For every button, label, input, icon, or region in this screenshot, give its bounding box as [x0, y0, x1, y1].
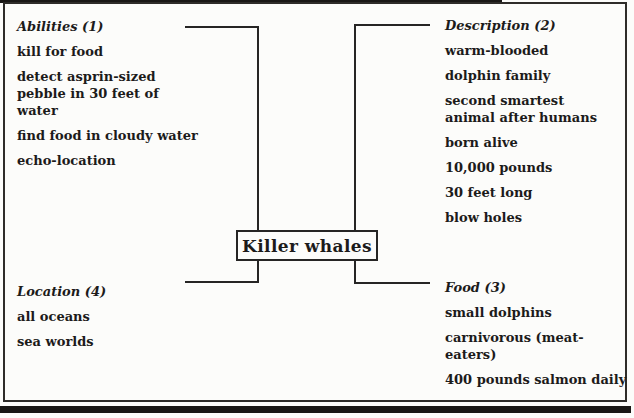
section-food: Food (3) small dolphins carnivorous (mea… [445, 279, 627, 396]
list-item: 400 pounds salmon daily [445, 371, 627, 388]
section-heading-food: Food (3) [445, 279, 627, 296]
list-item: detect asprin-sized pebble in 30 feet of… [17, 68, 199, 119]
list-item: second smartest animal after humans [445, 92, 607, 126]
connector-food-horizontal [354, 282, 430, 284]
center-node-label: Killer whales [242, 236, 372, 256]
connector-food-vertical [354, 259, 356, 284]
center-node: Killer whales [236, 230, 378, 261]
list-item: small dolphins [445, 304, 627, 321]
list-item: born alive [445, 134, 607, 151]
list-item: dolphin family [445, 67, 607, 84]
connector-description-horizontal [354, 24, 430, 26]
section-location: Location (4) all oceans sea worlds [17, 283, 199, 358]
list-item: kill for food [17, 43, 199, 60]
list-item: 10,000 pounds [445, 159, 607, 176]
section-abilities: Abilities (1) kill for food detect aspri… [17, 18, 199, 177]
list-item: find food in cloudy water [17, 127, 199, 144]
section-heading-abilities: Abilities (1) [17, 18, 199, 35]
list-item: all oceans [17, 308, 199, 325]
list-item: 30 feet long [445, 184, 607, 201]
list-item: warm-blooded [445, 42, 607, 59]
list-item: sea worlds [17, 333, 199, 350]
section-description: Description (2) warm-blooded dolphin fam… [445, 17, 607, 234]
connector-abilities-vertical [257, 26, 259, 232]
section-heading-location: Location (4) [17, 283, 199, 300]
connector-description-vertical [354, 24, 356, 232]
list-item: carnivorous (meat-eaters) [445, 329, 627, 363]
scan-artifact-bottom-bar [0, 406, 631, 413]
list-item: blow holes [445, 209, 607, 226]
connector-location-vertical [257, 259, 259, 283]
list-item: echo-location [17, 152, 199, 169]
scanned-diagram-page: Killer whales Abilities (1) kill for foo… [0, 0, 634, 418]
section-heading-description: Description (2) [445, 17, 607, 34]
